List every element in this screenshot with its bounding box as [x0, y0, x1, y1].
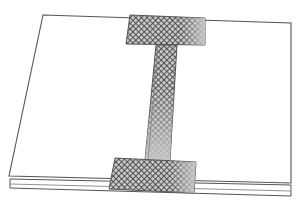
top-tape-pad: [126, 15, 205, 45]
drywall-tape-illustration: [0, 0, 298, 200]
bottom-tape-pad: [109, 158, 196, 193]
